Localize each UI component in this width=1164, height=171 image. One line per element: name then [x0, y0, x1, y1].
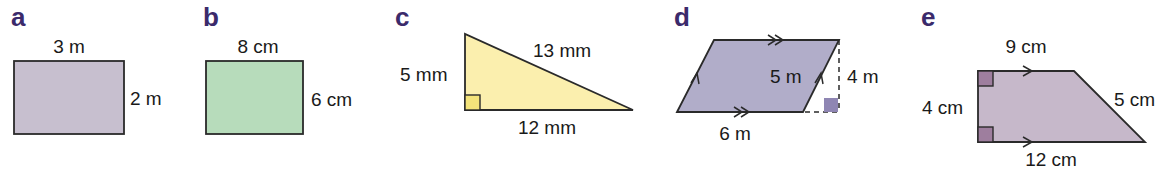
right-angle-marker-top-e: [978, 71, 993, 86]
parallelogram-d-height-length: 4 m: [847, 66, 879, 87]
triangle-c-hypotenuse-length: 13 mm: [533, 40, 591, 61]
parallelogram-d-bottom-length: 6 m: [719, 123, 751, 144]
shape-a-label: a: [11, 2, 26, 32]
rect-a-top-length: 3 m: [53, 36, 85, 57]
trapezium-e-slant-length: 5 cm: [1114, 89, 1155, 110]
rect-b-top-length: 8 cm: [237, 36, 278, 57]
rectangle-a: [14, 61, 124, 134]
shapes-diagram: a 3 m 2 m b 8 cm 6 cm c 5 mm 13 mm 12 mm…: [0, 0, 1164, 171]
triangle-c-bottom-length: 12 mm: [518, 117, 576, 138]
parallelogram-d: [677, 40, 839, 112]
right-angle-marker-d: [824, 98, 838, 112]
shape-c: c 5 mm 13 mm 12 mm: [395, 2, 633, 138]
triangle-c-left-length: 5 mm: [400, 64, 448, 85]
rect-b-right-length: 6 cm: [311, 89, 352, 110]
shape-d-label: d: [674, 2, 690, 32]
shape-d: d 5 m 4 m 6 m: [674, 2, 879, 144]
right-angle-marker-bottom-e: [978, 127, 993, 142]
shape-c-label: c: [395, 2, 409, 32]
shape-e-label: e: [921, 2, 935, 32]
shape-b: b 8 cm 6 cm: [203, 2, 352, 134]
trapezium-e-top-length: 9 cm: [1005, 36, 1046, 57]
rect-a-right-length: 2 m: [130, 88, 162, 109]
shape-e: e 9 cm 4 cm 5 cm 12 cm: [921, 2, 1155, 170]
trapezium-e-bottom-length: 12 cm: [1025, 149, 1077, 170]
right-angle-marker-c: [465, 95, 480, 110]
rectangle-b: [206, 61, 303, 134]
trapezium-e-left-length: 4 cm: [922, 97, 963, 118]
parallelogram-d-slant-length: 5 m: [770, 66, 802, 87]
shape-a: a 3 m 2 m: [11, 2, 162, 134]
shape-b-label: b: [203, 2, 219, 32]
